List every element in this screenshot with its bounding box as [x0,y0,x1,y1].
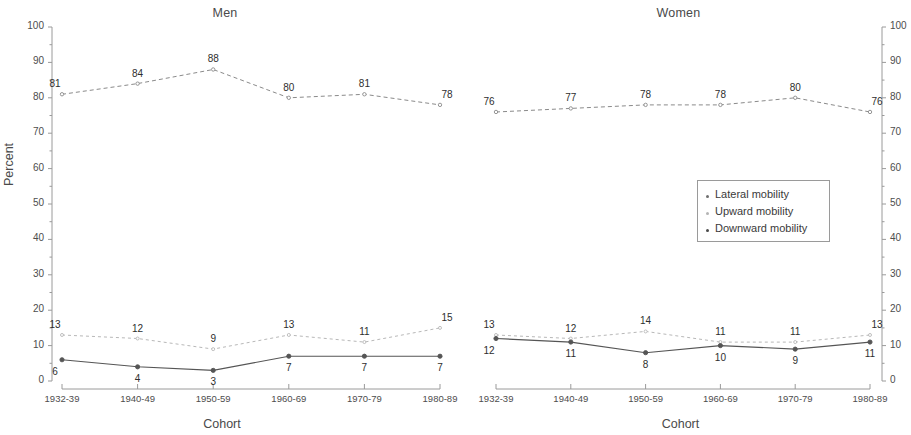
legend-label-lateral: Lateral mobility [713,188,789,200]
data-point-label: 13 [42,319,68,330]
legend-item-lateral: Lateral mobility [702,185,824,202]
legend-label-downward: Downward mobility [713,222,807,234]
x-tick-label: 1950-59 [178,393,248,404]
y-tick-label: 70 [890,126,911,137]
y-tick-label: 70 [18,126,44,137]
y-tick-label: 0 [18,374,44,385]
x-tick-label: 1940-49 [103,393,173,404]
data-point-label: 11 [351,326,377,337]
y-tick-label: 90 [890,55,911,66]
x-tick-label: 1980-89 [835,393,905,404]
x-tick-label: 1960-69 [685,393,755,404]
data-point-label: 15 [434,312,460,323]
legend-item-downward: Downward mobility [702,219,824,236]
y-tick-label: 20 [890,303,911,314]
data-point-label: 10 [707,352,733,363]
data-point-label: 7 [351,362,377,373]
y-tick-label: 30 [18,268,44,279]
legend-item-upward: Upward mobility [702,202,824,219]
x-tick-label: 1970-79 [329,393,399,404]
data-point-label: 13 [864,319,890,330]
y-tick-label: 40 [18,232,44,243]
data-point-label: 78 [434,89,460,100]
data-point-label: 11 [558,348,584,359]
data-point-label: 11 [857,348,883,359]
data-point-label: 11 [782,326,808,337]
x-tick-label: 1932-39 [27,393,97,404]
y-tick-label: 100 [890,20,911,31]
y-tick-label: 0 [890,374,911,385]
panel-men-plot [0,0,460,435]
legend-marker-downward-icon [702,222,713,234]
data-point-label: 11 [707,326,733,337]
data-point-label: 77 [558,92,584,103]
x-tick-label: 1950-59 [611,393,681,404]
y-tick-label: 10 [18,339,44,350]
y-tick-label: 40 [890,232,911,243]
data-point-label: 78 [633,89,659,100]
y-tick-label: 50 [18,197,44,208]
y-tick-label: 60 [890,162,911,173]
y-tick-label: 60 [18,162,44,173]
y-tick-label: 80 [18,91,44,102]
data-point-label: 14 [633,315,659,326]
data-point-label: 7 [427,362,453,373]
legend-marker-lateral-icon [702,188,713,200]
y-tick-label: 100 [18,20,44,31]
y-tick-label: 80 [890,91,911,102]
data-point-label: 6 [42,366,68,377]
data-point-label: 12 [125,323,151,334]
x-tick-label: 1932-39 [461,393,531,404]
y-tick-label: 10 [890,339,911,350]
legend-label-upward: Upward mobility [713,205,793,217]
legend: Lateral mobility Upward mobility Downwar… [697,180,830,242]
data-point-label: 76 [476,96,502,107]
y-tick-label: 30 [890,268,911,279]
panel-men: Men Percent Cohort 010203040506070809010… [0,0,460,435]
data-point-label: 13 [476,319,502,330]
data-point-label: 9 [200,333,226,344]
data-point-label: 88 [200,53,226,64]
data-point-label: 13 [276,319,302,330]
y-tick-label: 90 [18,55,44,66]
data-point-label: 81 [42,78,68,89]
data-point-label: 8 [633,359,659,370]
data-point-label: 7 [276,362,302,373]
data-point-label: 4 [125,373,151,384]
data-point-label: 84 [125,68,151,79]
x-tick-label: 1960-69 [254,393,324,404]
data-point-label: 81 [351,78,377,89]
data-point-label: 80 [782,82,808,93]
y-tick-label: 20 [18,303,44,314]
data-point-label: 12 [476,345,502,356]
data-point-label: 76 [864,96,890,107]
legend-marker-upward-icon [702,205,713,217]
data-point-label: 12 [558,323,584,334]
data-point-label: 3 [200,376,226,387]
y-tick-label: 50 [890,197,911,208]
data-point-label: 80 [276,82,302,93]
data-point-label: 9 [782,355,808,366]
x-tick-label: 1940-49 [536,393,606,404]
x-tick-label: 1970-79 [760,393,830,404]
data-point-label: 78 [707,89,733,100]
